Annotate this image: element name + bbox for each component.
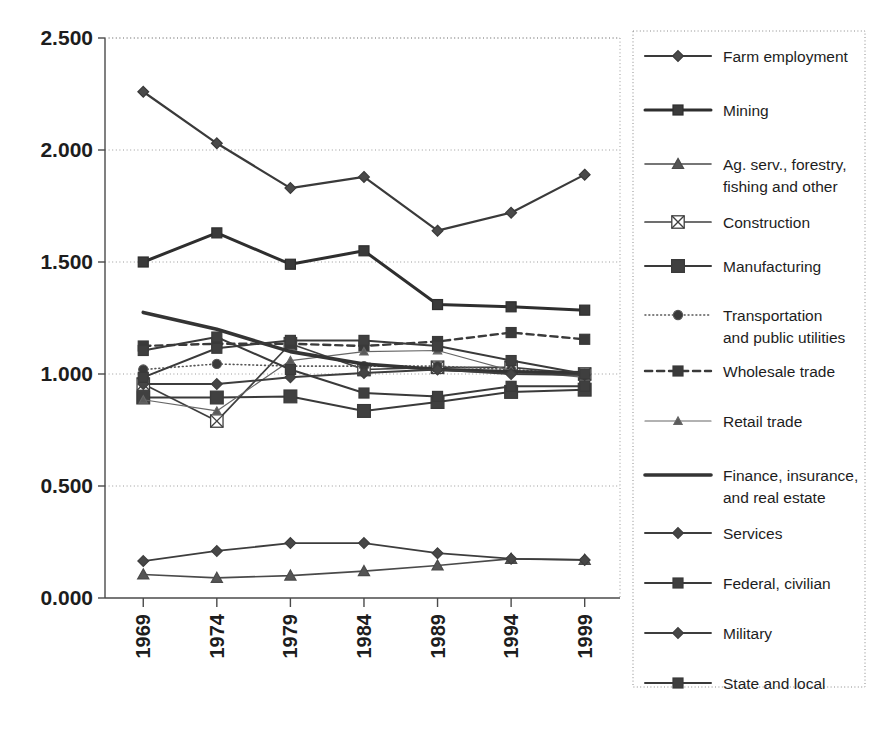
data-point-marker [285,365,295,375]
x-tick-label: 1984 [353,613,375,658]
legend-box: Farm employmentMiningAg. serv., forestry… [633,31,865,692]
data-point-marker [359,335,369,345]
legend-label: Military [723,625,772,642]
data-point-marker [210,391,223,404]
legend-label: Wholesale trade [723,363,835,380]
line-chart-canvas: 0.0000.5001.0001.5002.0002.500 196919741… [0,0,872,744]
legend-label: Federal, civilian [723,575,831,592]
data-point-marker [506,328,516,338]
legend-label: Manufacturing [723,258,821,275]
data-point-marker [433,391,443,401]
data-point-marker [673,310,682,319]
data-point-marker [580,334,590,344]
data-point-marker [506,381,516,391]
y-tick-label: 0.500 [40,474,93,497]
legend-label: Construction [723,214,810,231]
data-point-marker [672,260,685,273]
legend-label: Services [723,525,783,542]
data-point-marker [673,366,683,376]
legend-label: Finance, insurance, [723,467,858,484]
legend-label: Retail trade [723,413,802,430]
data-point-marker [212,359,221,368]
x-tick-label: 1989 [427,614,449,659]
data-point-marker [673,678,683,688]
legend-label: and public utilities [723,329,846,346]
y-tick-label: 0.000 [40,586,93,609]
legend-label: Transportation [723,307,822,324]
data-point-marker [506,302,516,312]
data-point-marker [506,356,516,366]
data-point-marker [284,390,297,403]
data-point-marker [358,405,371,418]
data-point-marker [433,300,443,310]
data-point-marker [285,259,295,269]
data-point-marker [673,578,683,588]
chart-figure: 0.0000.5001.0001.5002.0002.500 196919741… [0,0,872,744]
data-point-marker [285,335,295,345]
x-tick-label: 1999 [574,614,596,659]
data-point-marker [359,246,369,256]
data-point-marker [580,381,590,391]
x-tick-label: 1969 [132,614,154,659]
x-tick-label: 1974 [206,613,228,658]
data-point-marker [212,228,222,238]
y-tick-label: 1.500 [40,250,93,273]
data-point-marker [212,343,222,353]
data-point-marker [359,388,369,398]
y-tick-label: 2.000 [40,138,93,161]
data-point-marker [138,345,148,355]
data-point-marker [433,341,443,351]
legend-label: and real estate [723,489,826,506]
x-tick-label: 1994 [500,613,522,658]
legend-label: Ag. serv., forestry, [723,156,846,173]
data-point-marker [138,257,148,267]
y-tick-label: 1.000 [40,362,93,385]
legend-item-5[interactable]: Manufacturing [645,258,821,275]
data-point-marker [580,369,590,379]
data-point-marker [673,105,683,115]
legend-label: fishing and other [723,178,838,195]
x-tick-label: 1979 [279,614,301,659]
y-tick-label: 2.500 [40,26,93,49]
data-point-marker [138,372,148,382]
data-point-marker [212,332,222,342]
legend-label: Farm employment [723,48,849,65]
legend-label: Mining [723,102,769,119]
legend-label: State and local [723,675,826,692]
data-point-marker [580,305,590,315]
